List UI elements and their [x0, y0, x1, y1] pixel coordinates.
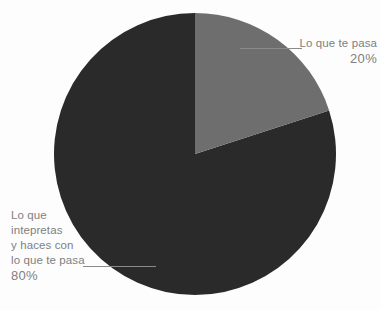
callout-dark-label-line-1: Lo que — [11, 208, 85, 223]
callout-dark-slice: Lo que intepretas y haces con lo que te … — [11, 208, 85, 283]
callout-dark-label-line-3: y haces con — [11, 238, 85, 253]
callout-dark-label-line-4: lo que te pasa — [11, 253, 85, 268]
callout-gray-slice: Lo que te pasa 20% — [300, 36, 378, 66]
leader-line-dark-slice — [83, 266, 156, 267]
callout-dark-label-line-2: intepretas — [11, 223, 85, 238]
pie-chart-figure: Lo que te pasa 20% Lo que intepretas y h… — [0, 0, 381, 310]
leader-line-gray-slice — [240, 48, 302, 49]
callout-dark-percent: 80% — [11, 268, 85, 283]
callout-gray-percent: 20% — [300, 51, 378, 66]
callout-gray-label: Lo que te pasa — [300, 37, 378, 49]
